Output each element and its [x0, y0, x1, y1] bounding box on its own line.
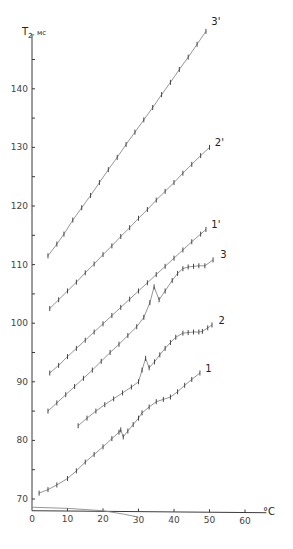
x-tick-label: 20: [97, 514, 109, 524]
x-tick-label: 10: [62, 514, 74, 524]
y-tick-label: 140: [11, 84, 28, 94]
y-tick-label: 90: [17, 377, 29, 387]
nmr-relaxation-chart: 7080901001101201301400102030405060 3'2'1…: [0, 0, 293, 549]
series-line: [48, 31, 206, 255]
series-group: [39, 29, 213, 496]
series-line: [39, 373, 200, 493]
series-3p: [48, 29, 206, 258]
series-3: [48, 257, 213, 413]
x-axis-unit-label: °C: [263, 506, 275, 517]
series-line: [48, 260, 213, 411]
axes: 7080901001101201301400102030405060: [11, 34, 266, 526]
y-tick-label: 80: [17, 435, 29, 445]
y-tick-label: 100: [11, 318, 28, 328]
baseline-curve: [32, 507, 139, 517]
y-tick-label: 120: [11, 201, 28, 211]
series-label: 1: [205, 363, 211, 374]
series-1p: [50, 227, 206, 376]
series-label: 3: [220, 249, 226, 260]
x-tick-label: 60: [239, 516, 251, 526]
x-tick-label: 50: [204, 515, 216, 525]
y-tick-label: 130: [11, 142, 28, 152]
series-1: [39, 371, 200, 496]
y-tick-label: 70: [17, 494, 29, 504]
series-label: 1': [211, 219, 220, 230]
x-tick-label: 0: [29, 514, 35, 524]
series-label: 3': [211, 16, 220, 27]
y-axis-label: T2, мс: [21, 26, 46, 40]
series-label: 2: [218, 315, 224, 326]
series-2: [78, 322, 212, 428]
series-2p: [50, 145, 210, 311]
x-tick-label: 40: [168, 515, 180, 525]
series-labels: 3'2'1'321: [205, 16, 226, 373]
series-label: 2': [215, 137, 224, 148]
y-tick-label: 110: [11, 260, 28, 270]
